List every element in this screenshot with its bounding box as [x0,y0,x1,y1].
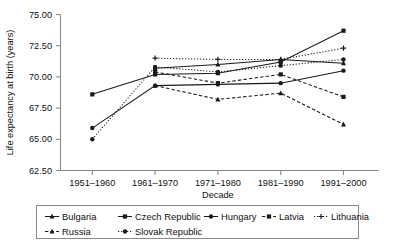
data-point [341,29,345,33]
data-point [153,65,157,69]
legend-marker [267,214,271,218]
x-tick-label-1971-1980: 1971–1980 [195,178,241,188]
legend-marker [123,214,127,218]
x-axis-title: Decade [202,190,234,200]
x-tick-label-1951-1960: 1951–1960 [69,178,115,188]
y-tick-label-65-00: 65.00 [29,134,52,144]
data-point [341,68,345,72]
data-point [341,57,345,61]
x-tick-label-1991-2000: 1991–2000 [321,178,367,188]
data-point [216,81,220,85]
chart-background [0,0,395,243]
legend-label: Hungary [221,211,257,222]
legend-label: Lithuania [331,211,370,222]
data-point [153,70,157,74]
y-axis-title: Life expectancy at birth (years) [5,30,15,156]
x-axis-tick-labels: 1951–1960 1961–1970 1971–1980 1981–1990 … [69,178,366,188]
data-point [216,70,220,74]
data-point [90,137,94,141]
legend-label: Slovak Republic [135,226,203,237]
legend-label: Latvia [279,211,305,222]
x-tick-label-1961-1970: 1961–1970 [132,178,178,188]
y-tick-label-70-00: 70.00 [29,72,52,82]
data-point [279,81,283,85]
legend-label: Bulgaria [62,211,97,222]
data-point [279,72,283,76]
chart-figure: 62.50 65.00 67.50 70.00 72.50 75.00 Life… [0,0,395,243]
data-point [279,63,283,67]
data-point [90,92,94,96]
y-tick-label-67-50: 67.50 [29,103,52,113]
life-expectancy-line-chart: 62.50 65.00 67.50 70.00 72.50 75.00 Life… [0,0,395,243]
y-tick-label-75-00: 75.00 [29,10,52,20]
legend-label: Russia [62,226,91,237]
y-tick-label-62-50: 62.50 [29,166,52,176]
y-tick-label-72-50: 72.50 [29,41,52,51]
x-tick-label-1981-1990: 1981–1990 [258,178,304,188]
data-point [90,126,94,130]
legend-marker [123,229,127,233]
legend-label: Czech Republic [135,211,201,222]
data-point [341,95,345,99]
legend-marker [209,214,213,218]
